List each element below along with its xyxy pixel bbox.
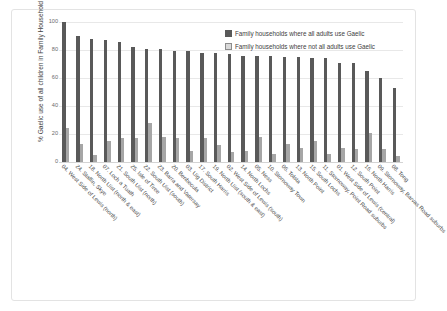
bar: [190, 151, 193, 162]
bar-group: [114, 22, 128, 162]
bar: [341, 148, 344, 162]
bar: [204, 138, 207, 162]
bar-group: [197, 22, 211, 162]
legend-item: Family households where all adults use G…: [225, 30, 375, 37]
y-axis-tick-label: 0: [38, 159, 58, 165]
bar-group: [210, 22, 224, 162]
legend-swatch-icon: [225, 43, 232, 50]
y-axis-tick-label: 40: [38, 103, 58, 109]
legend-label: Family households where not all adults u…: [235, 43, 375, 50]
bar: [393, 88, 396, 162]
bar-group: [376, 22, 390, 162]
bar: [231, 152, 234, 162]
bar: [107, 141, 110, 162]
bar-group: [100, 22, 114, 162]
bar-group: [73, 22, 87, 162]
legend-swatch-icon: [225, 30, 232, 37]
bar-group: [142, 22, 156, 162]
bar: [93, 155, 96, 162]
bar: [324, 58, 327, 162]
bar: [121, 138, 124, 162]
bar-group: [389, 22, 403, 162]
bar: [355, 149, 358, 162]
bar: [352, 63, 355, 162]
bar: [148, 123, 151, 162]
bar: [90, 39, 93, 162]
bar: [241, 56, 244, 162]
bar-group: [183, 22, 197, 162]
bar: [314, 141, 317, 162]
bar: [245, 151, 248, 162]
bar: [300, 148, 303, 162]
legend: Family households where all adults use G…: [225, 30, 375, 50]
bar: [217, 145, 220, 162]
bar: [259, 137, 262, 162]
bar: [369, 133, 372, 162]
gridline: [59, 162, 403, 163]
legend-label: Family households where all adults use G…: [235, 30, 365, 37]
y-axis-tick-label: 20: [38, 131, 58, 137]
legend-item: Family households where not all adults u…: [225, 43, 375, 50]
bar: [135, 138, 138, 162]
bar: [272, 154, 275, 162]
bar: [162, 137, 165, 162]
bar-group: [169, 22, 183, 162]
bar-group: [59, 22, 73, 162]
bar: [269, 56, 272, 162]
bar-group: [155, 22, 169, 162]
bar-group: [128, 22, 142, 162]
bar: [327, 154, 330, 162]
bar: [228, 54, 231, 162]
bar: [176, 138, 179, 162]
chart-container: % Gaelic use of all children in Family H…: [11, 9, 416, 301]
bar: [396, 156, 399, 162]
y-axis-tick-label: 80: [38, 47, 58, 53]
bar: [286, 144, 289, 162]
bar: [297, 57, 300, 162]
bar: [382, 149, 385, 162]
x-axis-tick-labels: 04. West Side of Lewis (north)24. Staffi…: [59, 164, 403, 294]
bar: [66, 128, 69, 162]
y-axis-tick-label: 100: [38, 19, 58, 25]
y-axis-tick-label: 60: [38, 75, 58, 81]
bar: [80, 144, 83, 162]
y-axis-tick-labels: 020406080100: [38, 10, 58, 174]
bar: [186, 51, 189, 162]
bar-group: [87, 22, 101, 162]
